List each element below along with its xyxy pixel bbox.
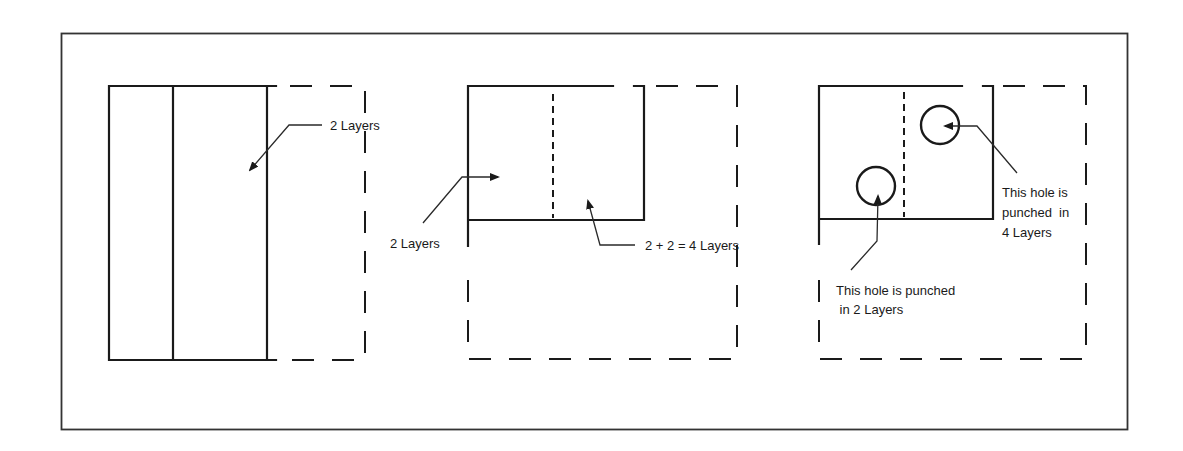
panel-2-solid-outline bbox=[468, 86, 644, 246]
panel-3-dashed-outline bbox=[819, 86, 1086, 359]
panel-3: This hole is punched in 4 Layers This ho… bbox=[819, 86, 1086, 359]
panel-2-left-arrow bbox=[423, 177, 498, 223]
panel-2: 2 Layers 2 + 2 = 4 Layers bbox=[390, 86, 739, 359]
panel-2-overlap-layers-label: 2 + 2 = 4 Layers bbox=[645, 238, 739, 253]
panel-2-left-layers-label: 2 Layers bbox=[390, 236, 440, 251]
panel-1-arrow bbox=[250, 125, 322, 170]
folding-diagram: 2 Layers 2 Layers 2 + 2 = 4 Layers This … bbox=[0, 0, 1183, 451]
hole-four-layers-arrow bbox=[945, 126, 1017, 173]
hole-four-layers-label-line3: 4 Layers bbox=[1002, 225, 1052, 240]
panel-3-solid-outline bbox=[819, 86, 993, 244]
hole-two-layers-arrow bbox=[851, 196, 878, 270]
hole-four-layers-icon bbox=[921, 106, 959, 144]
hole-two-layers-icon bbox=[857, 167, 895, 205]
panel-1-layers-label: 2 Layers bbox=[330, 118, 380, 133]
hole-four-layers-label-line1: This hole is bbox=[1002, 185, 1068, 200]
hole-two-layers-label-line1: This hole is punched bbox=[836, 283, 955, 298]
panel-2-dashed-outline bbox=[468, 86, 737, 359]
panel-1-solid-outline bbox=[109, 86, 276, 360]
hole-four-layers-label-line2: punched in bbox=[1002, 205, 1069, 220]
hole-two-layers-label-line2: in 2 Layers bbox=[836, 302, 904, 317]
outer-frame bbox=[62, 34, 1128, 430]
panel-1: 2 Layers bbox=[109, 86, 380, 360]
panel-2-overlap-arrow bbox=[588, 201, 635, 245]
